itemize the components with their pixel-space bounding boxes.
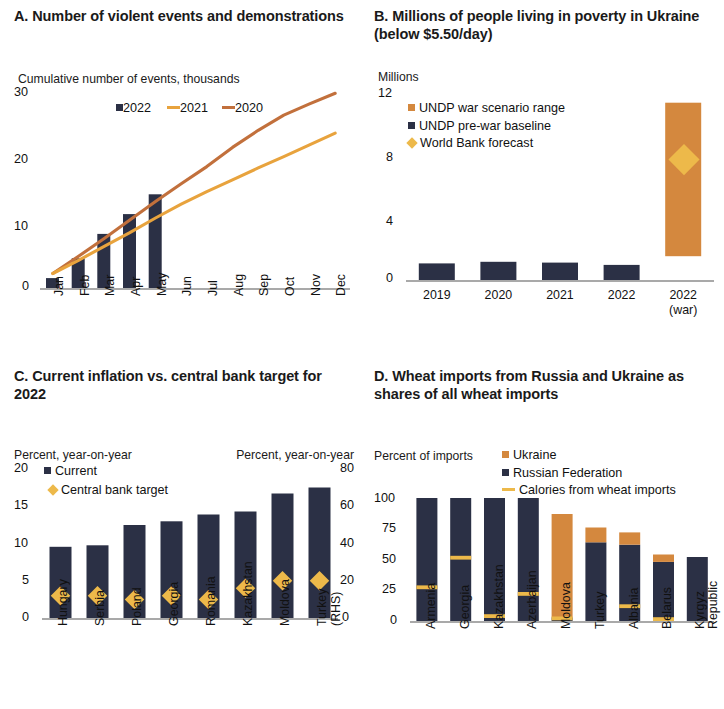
legend-label-ukraine: Ukraine — [513, 448, 556, 462]
xlabel-jul: Jul — [206, 280, 220, 296]
panel-c-ytick-l-0: 0 — [22, 610, 29, 624]
panel-c-ytick-r-0: 0 — [342, 610, 349, 624]
bar-belarus-ukraine — [653, 555, 674, 562]
xlabel-poland: Poland — [130, 587, 144, 626]
xlabel-kazakhstan: Kazakhstan — [241, 561, 255, 626]
panel-a-plot — [40, 90, 348, 288]
xlabel-jun: Jun — [180, 276, 194, 296]
xlabel-georgia: Georgia — [167, 582, 181, 626]
bar-2019 — [419, 263, 455, 280]
bar-albania-ukraine — [619, 532, 640, 544]
xlabel-dec: Dec — [334, 274, 348, 296]
xlabel-nov: Nov — [309, 274, 323, 296]
xlabel-apr: Apr — [129, 277, 143, 296]
xlabel-romania: Romania — [204, 576, 218, 626]
panel-a-ytick-30: 30 — [14, 85, 28, 99]
xlabel-mar: Mar — [103, 275, 117, 296]
legend-swatch-ukraine — [502, 451, 509, 458]
legend-swatch-calories — [502, 488, 515, 491]
panel-c-ytick-l-5: 5 — [22, 573, 29, 587]
panel-c-ytick-r-60: 60 — [340, 498, 354, 512]
xlabel-hungary: Hungary — [56, 579, 70, 626]
panel-d-legend: Ukraine Russian Federation Calories from… — [502, 446, 676, 499]
xlabel-moldova: Moldova — [278, 579, 292, 626]
xlabel-belarus: Belarus — [660, 587, 674, 629]
xlabel-2019: 2019 — [406, 288, 468, 318]
panel-c-ytick-r-40: 40 — [340, 536, 354, 550]
xlabel-2022: 2022 — [591, 288, 653, 318]
panel-d-ytick-25: 25 — [382, 582, 396, 596]
panel-b-ytick-8: 8 — [386, 150, 393, 164]
xlabel-2021: 2021 — [529, 288, 591, 318]
panel-c-axis-caption-left: Percent, year-on-year — [14, 448, 132, 462]
panel-b-xaxis — [406, 280, 714, 282]
xlabel-oct: Oct — [283, 277, 297, 296]
panel-a-line-2021 — [53, 133, 335, 273]
bar-2022-war-range — [665, 103, 701, 257]
xlabel-aug: Aug — [232, 274, 246, 296]
panel-b-title: B. Millions of people living in poverty … — [374, 8, 716, 43]
panel-a-svg — [40, 90, 348, 288]
panel-a-ytick-10: 10 — [14, 219, 28, 233]
legend-label-russia: Russian Federation — [513, 466, 622, 480]
bar-2021 — [542, 263, 578, 280]
panel-c-svg — [42, 468, 338, 618]
xlabel-feb: Feb — [78, 275, 92, 296]
xlabel-kyrgyz-republic: KyrgyzRepublic — [694, 581, 720, 629]
panel-d-title: D. Wheat imports from Russia and Ukraine… — [374, 368, 720, 403]
xlabel-kazakhstan: Kazakhstan — [492, 564, 506, 629]
panel-a-ytick-0: 0 — [22, 279, 29, 293]
panel-c-ytick-r-20: 20 — [340, 573, 354, 587]
panel-d: D. Wheat imports from Russia and Ukraine… — [362, 354, 724, 709]
panel-d-ytick-50: 50 — [382, 552, 396, 566]
legend-swatch-russia — [502, 469, 509, 476]
xlabel-jan: Jan — [52, 276, 66, 296]
xlabel-moldova: Moldova — [559, 582, 573, 629]
panel-c-ytick-l-20: 20 — [14, 461, 28, 475]
panel-b-ytick-12: 12 — [378, 86, 392, 100]
panel-a: A. Number of violent events and demonstr… — [0, 0, 362, 354]
panel-d-ytick-75: 75 — [382, 521, 396, 535]
panel-d-legend-row-calories: Calories from wheat imports — [502, 481, 676, 499]
xlabel-armenia: Armenia — [424, 583, 438, 629]
panel-a-ytick-20: 20 — [14, 152, 28, 166]
panel-d-legend-row-russia: Russian Federation — [502, 464, 676, 482]
bar-2020 — [480, 262, 516, 280]
legend-label-calories: Calories from wheat imports — [519, 483, 676, 497]
xlabel-2022-war: 2022(war) — [652, 288, 714, 318]
panel-d-ytick-100: 100 — [374, 491, 395, 505]
xlabel-georgia: Georgia — [458, 585, 472, 629]
panel-a-axis-caption: Cumulative number of events, thousands — [18, 72, 240, 86]
panel-b-ytick-4: 4 — [386, 214, 393, 228]
panel-c-xaxis — [42, 618, 338, 620]
panel-a-title: A. Number of violent events and demonstr… — [14, 8, 344, 26]
xlabel-turkey-rhs: Turkey(RHS) — [315, 589, 343, 626]
panel-b-xlabels: 2019 2020 2021 2022 2022(war) — [406, 288, 714, 318]
panel-b-plot — [406, 90, 714, 280]
panel-d-axis-caption: Percent of imports — [374, 449, 473, 463]
xlabel-turkey: Turkey — [593, 592, 607, 629]
panel-b-axis-caption: Millions — [378, 70, 419, 84]
xlabel-sep: Sep — [257, 274, 271, 296]
panel-c-plot — [42, 468, 338, 618]
panel-c-axis-caption-right: Percent, year-on-year — [236, 448, 354, 462]
panel-c-ytick-r-80: 80 — [340, 461, 354, 475]
xlabel-2020: 2020 — [468, 288, 530, 318]
calorie-marker-georgia — [450, 556, 471, 560]
panel-b-svg — [406, 90, 714, 280]
panel-b-ytick-0: 0 — [386, 271, 393, 285]
bar-turkey-ukraine — [585, 528, 606, 543]
xlabel-serbia: Serbia — [93, 590, 107, 626]
panel-d-ytick-0: 0 — [390, 613, 397, 627]
panel-b: B. Millions of people living in poverty … — [362, 0, 724, 354]
panel-c-ytick-l-10: 10 — [14, 536, 28, 550]
xlabel-may: May — [155, 273, 169, 296]
panel-d-legend-row-ukraine: Ukraine — [502, 446, 676, 464]
xlabel-albania: Albania — [627, 588, 641, 629]
panel-c-title: C. Current inflation vs. central bank ta… — [14, 368, 344, 403]
bar-2022 — [604, 265, 640, 280]
xlabel-azerbaijan: Azerbaijan — [525, 570, 539, 629]
panel-c-ytick-l-15: 15 — [14, 498, 28, 512]
figure-panel-grid: A. Number of violent events and demonstr… — [0, 0, 724, 709]
panel-a-line-2020 — [53, 93, 335, 273]
